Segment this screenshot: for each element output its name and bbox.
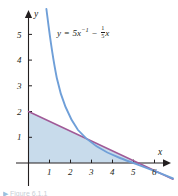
figure-caption: ▶Figure 6.1.1 (3, 190, 47, 196)
y-axis-label: y (34, 10, 38, 20)
y-tick-label-2: 2 (17, 108, 22, 117)
equation-lhs: y (57, 28, 61, 38)
equation-term2-var: x (105, 28, 109, 38)
equation-annotation: y = 5x−1 − 1 5 x (57, 25, 109, 39)
y-axis-arrowhead (25, 10, 32, 18)
y-tick-label-4: 4 (17, 56, 22, 65)
figure-container: 5 4 3 2 1 1 2 3 4 5 6 y x y = 5x−1 − 1 5… (0, 0, 178, 196)
y-tick-label-3: 3 (17, 82, 22, 91)
equation-equals: = (63, 28, 70, 38)
x-tick-label-1: 1 (47, 168, 52, 177)
equation-term1-exponent: −1 (81, 26, 89, 33)
equation-term1-base: 5x (73, 28, 82, 38)
x-axis-arrowhead (163, 159, 171, 166)
caption-marker-icon: ▶ (3, 190, 10, 196)
x-axis-label: x (158, 148, 162, 158)
y-tick-label-1: 1 (17, 133, 22, 142)
caption-text: Figure 6.1.1 (10, 190, 47, 196)
y-tick-label-5: 5 (17, 31, 22, 40)
x-tick-label-6: 6 (152, 168, 157, 177)
x-tick-label-4: 4 (110, 168, 115, 177)
x-tick-label-2: 2 (68, 168, 73, 177)
x-tick-label-3: 3 (89, 168, 94, 177)
x-tick-label-5: 5 (131, 168, 136, 177)
equation-operator: − (91, 28, 98, 38)
